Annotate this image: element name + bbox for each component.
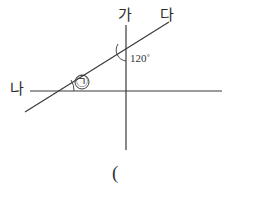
label-ray-da: 다 xyxy=(160,8,174,23)
label-bottom-paren: ( xyxy=(112,163,118,182)
figure-canvas xyxy=(0,0,260,199)
label-angle-120: 120˚ xyxy=(130,53,150,64)
label-ray-up-ga: 가 xyxy=(118,8,132,23)
label-ray-na: 나 xyxy=(10,82,24,97)
label-unknown-angle-marker: ㉠ xyxy=(76,76,88,88)
geometry-figure: 가 다 나 120˚ ㉠ ( xyxy=(0,0,260,199)
diagonal-line xyxy=(25,22,169,112)
